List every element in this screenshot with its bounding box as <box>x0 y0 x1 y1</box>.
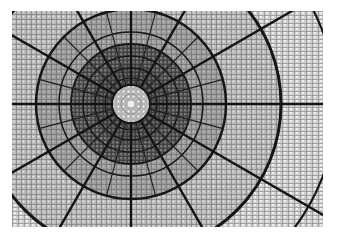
stained-glass-dome-photo: Stained-glass dome ceiling viewed from b… <box>12 11 323 227</box>
dome-illustration <box>12 11 323 227</box>
